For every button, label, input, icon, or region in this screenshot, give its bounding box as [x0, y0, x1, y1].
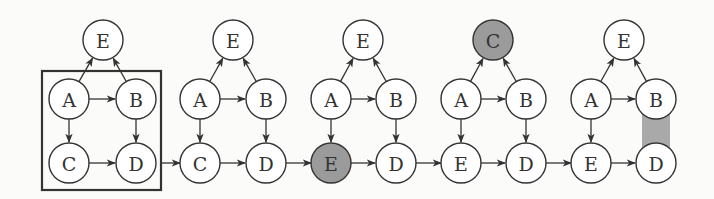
node-label: E [324, 153, 338, 175]
node-label: C [62, 153, 77, 175]
node-label: D [128, 153, 143, 175]
node-e-panel-5: E [604, 20, 644, 60]
edge-b-top-panel-5 [634, 58, 646, 81]
node-a-panel-1: A [49, 79, 89, 119]
node-a-panel-5: A [571, 79, 611, 119]
node-label: C [193, 153, 208, 175]
node-b-panel-4: B [506, 79, 546, 119]
node-e-panel-2: E [213, 20, 253, 60]
node-a-panel-3: A [311, 79, 351, 119]
edges-layer [69, 58, 646, 163]
node-label: A [323, 89, 338, 111]
node-label: A [453, 89, 468, 111]
node-d-panel-2: D [246, 143, 286, 183]
node-d-panel-1: D [116, 143, 156, 183]
node-e-panel-1: E [83, 20, 123, 60]
node-a-panel-2: A [180, 79, 220, 119]
node-label: D [648, 153, 663, 175]
node-b-panel-5: B [636, 79, 676, 119]
node-label: E [584, 153, 598, 175]
node-label: B [259, 89, 273, 111]
node-e-panel-3: E [311, 143, 351, 183]
node-label: A [583, 89, 598, 111]
node-b-panel-3: B [376, 79, 416, 119]
node-label: C [486, 30, 501, 52]
node-d-panel-3: D [376, 143, 416, 183]
edge-b-top-panel-3 [373, 58, 386, 81]
node-c-panel-4: C [473, 20, 513, 60]
node-d-panel-5: D [636, 143, 676, 183]
node-label: A [61, 89, 76, 111]
node-label: E [454, 153, 468, 175]
edge-b-top-panel-2 [243, 58, 256, 81]
node-label: B [129, 89, 143, 111]
edge-a-top-panel-2 [210, 58, 223, 81]
dag-sequence-diagram: EABCDEABCDEABEDCABEDEABED [0, 0, 714, 199]
node-label: B [519, 89, 533, 111]
node-label: D [388, 153, 403, 175]
node-label: E [96, 30, 110, 52]
node-a-panel-4: A [441, 79, 481, 119]
node-d-panel-4: D [506, 143, 546, 183]
node-e-panel-4: E [441, 143, 481, 183]
node-label: B [649, 89, 663, 111]
node-b-panel-2: B [246, 79, 286, 119]
node-label: B [389, 89, 403, 111]
nodes-layer: EABCDEABCDEABEDCABEDEABED [49, 20, 676, 183]
node-label: A [192, 89, 207, 111]
edge-a-top-panel-3 [341, 58, 353, 81]
node-label: E [617, 30, 631, 52]
node-label: E [356, 30, 370, 52]
node-e-panel-5: E [571, 143, 611, 183]
edge-a-top-panel-5 [601, 58, 614, 81]
node-b-panel-1: B [116, 79, 156, 119]
edge-a-top-panel-4 [471, 58, 483, 81]
node-label: D [518, 153, 533, 175]
edge-b-top-panel-4 [503, 58, 516, 81]
node-label: E [226, 30, 240, 52]
node-label: D [258, 153, 273, 175]
node-c-panel-1: C [49, 143, 89, 183]
node-c-panel-2: C [180, 143, 220, 183]
node-e-panel-3: E [343, 20, 383, 60]
